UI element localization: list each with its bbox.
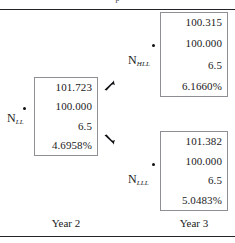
node-label-hll-subscript: HLL xyxy=(137,60,150,68)
figure-rule-top xyxy=(0,9,235,10)
node-dot-hll xyxy=(152,44,155,47)
node-ll-value-par: 100.000 xyxy=(39,100,92,113)
node-box-lll: 101.382 100.000 6.5 5.0483% xyxy=(160,131,228,211)
node-label-ll-base: N xyxy=(7,111,16,125)
node-ll-value-price: 101.723 xyxy=(39,81,92,94)
node-hll-value-coupon: 6.5 xyxy=(165,59,222,72)
figure-rule-bottom xyxy=(0,236,235,237)
node-ll-value-coupon: 6.5 xyxy=(39,120,92,133)
binomial-tree-figure: p NLL 101.723 100.000 6.5 4.6958% NHLL 1… xyxy=(0,0,235,243)
clipped-header-text: p xyxy=(0,0,235,3)
node-dot-lll xyxy=(152,163,155,166)
arrow-up-right-icon xyxy=(103,78,117,92)
node-box-ll: 101.723 100.000 6.5 4.6958% xyxy=(34,77,98,156)
year-3-caption: Year 3 xyxy=(160,217,228,230)
node-box-hll: 100.315 100.000 6.5 6.1660% xyxy=(160,12,228,97)
year-2-caption: Year 2 xyxy=(34,217,98,230)
arrow-down-right-icon xyxy=(103,133,117,147)
node-lll-value-coupon: 6.5 xyxy=(165,174,222,187)
node-dot-ll xyxy=(23,107,26,110)
node-label-hll: NHLL xyxy=(128,54,150,70)
node-label-hll-base: N xyxy=(128,53,137,67)
node-label-lll-base: N xyxy=(128,172,137,186)
node-label-ll-subscript: LL xyxy=(16,118,24,126)
node-hll-value-price: 100.315 xyxy=(165,16,222,29)
node-lll-value-price: 101.382 xyxy=(165,135,222,148)
node-ll-value-rate: 4.6958% xyxy=(39,139,92,152)
node-label-lll: NLLL xyxy=(128,173,149,189)
node-lll-value-par: 100.000 xyxy=(165,155,222,168)
node-label-ll: NLL xyxy=(7,112,24,128)
node-label-lll-subscript: LLL xyxy=(137,179,149,187)
node-lll-value-rate: 5.0483% xyxy=(165,194,222,207)
node-hll-value-par: 100.000 xyxy=(165,37,222,50)
node-hll-value-rate: 6.1660% xyxy=(165,80,222,93)
